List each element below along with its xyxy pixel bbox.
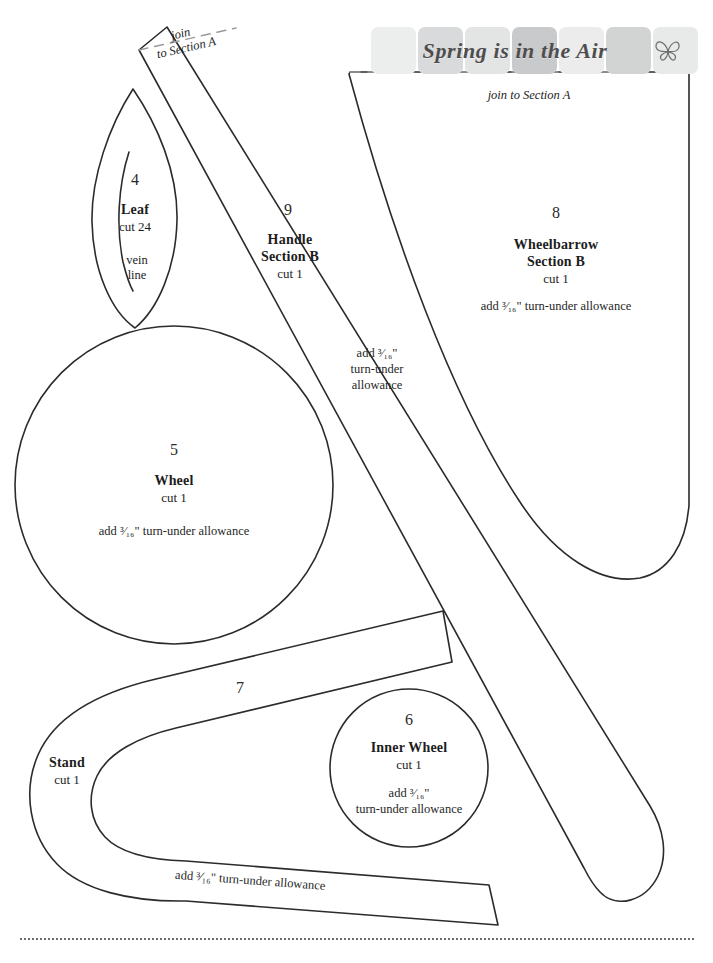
inner-wheel-cut: cut 1 xyxy=(354,757,464,773)
banner-square-6 xyxy=(606,27,651,74)
wheelbarrow-section-b-cut: cut 1 xyxy=(486,271,626,287)
wheel-name: Wheel xyxy=(144,472,204,489)
stand-number: 7 xyxy=(217,678,263,698)
stand-cut: cut 1 xyxy=(36,772,98,788)
handle-section-b-allowance-line3: allowance xyxy=(325,378,429,393)
wheel-allowance: add ³⁄₁₆" turn-under allowance xyxy=(74,524,274,539)
wheelbarrow-section-b-name-line1: Wheelbarrow xyxy=(486,236,626,253)
inner-wheel-name: Inner Wheel xyxy=(354,739,464,756)
leaf-vein-label-line2: line xyxy=(112,268,162,282)
wheel-cut: cut 1 xyxy=(144,490,204,506)
wheelbarrow-section-b-name-line2: Section B xyxy=(486,253,626,270)
banner-square-4 xyxy=(512,27,557,74)
inner-wheel-allowance-line2: turn-under allowance xyxy=(344,802,474,817)
wheelbarrow-section-b-allowance: add ³⁄₁₆" turn-under allowance xyxy=(456,299,656,314)
bottom-cut-line xyxy=(20,938,694,942)
leaf-vein-label-line1: vein xyxy=(112,253,162,267)
banner-square-1 xyxy=(371,27,416,74)
stand-name: Stand xyxy=(36,754,98,771)
pattern-page: Spring is in the Air join to Section A j… xyxy=(0,0,713,963)
banner-square-7 xyxy=(653,27,698,74)
leaf-cut: cut 24 xyxy=(107,219,163,235)
handle-section-b-cut: cut 1 xyxy=(250,266,330,282)
banner-square-2 xyxy=(418,27,463,74)
wheelbarrow-section-b-number: 8 xyxy=(533,203,579,223)
leaf-name: Leaf xyxy=(107,201,163,218)
handle-section-b-allowance-line2: turn-under xyxy=(325,362,429,377)
inner-wheel-allowance-line1: add ³⁄₁₆" xyxy=(354,786,464,801)
inner-wheel-number: 6 xyxy=(386,710,432,730)
pattern-artwork xyxy=(0,0,713,963)
banner-squares xyxy=(371,27,695,74)
wheel-number: 5 xyxy=(151,440,197,460)
handle-section-b-allowance-line1: add ³⁄₁₆" xyxy=(325,346,429,361)
wheelbarrow-join-label: join to Section A xyxy=(439,88,619,103)
leaf-number: 4 xyxy=(112,170,158,190)
banner-square-5 xyxy=(559,27,604,74)
banner-square-3 xyxy=(465,27,510,74)
handle-section-b-number: 9 xyxy=(265,200,311,220)
handle-section-b-name-line1: Handle xyxy=(250,231,330,248)
wheelbarrow-section-b-outline xyxy=(349,72,689,579)
handle-section-b-name-line2: Section B xyxy=(250,248,330,265)
